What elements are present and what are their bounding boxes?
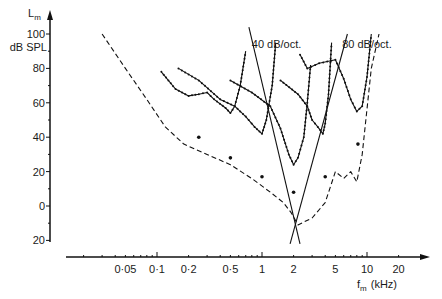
data-point-marker [356,142,360,146]
curve-sample-dot [363,97,365,99]
curve-sample-dot [257,96,259,98]
curve-sample-dot [242,113,244,115]
tuning-curve-chart: 40 dB/oct.80 dB/oct. Lm dB SPL fm(kHz) 1… [0,0,442,299]
curve-sample-dot [160,71,162,73]
curve-sample-dot [172,85,174,87]
curve-sample-dot [329,65,331,67]
curve-sample-dot [350,98,352,100]
curve-sample-dot [307,89,309,91]
curve-sample-dot [266,115,268,117]
data-point-marker [260,175,264,179]
curve-sample-dot [352,102,354,104]
curve-sample-dot [279,79,281,81]
curve-sample-dot [204,85,206,87]
curve-sample-dot [300,144,302,146]
y-tick-label: 20 [33,166,45,178]
curve-sample-dot [272,77,274,79]
curve-sample-dot [311,119,313,121]
x-axis-title: fm(kHz) [357,278,397,293]
curve-sample-dot [213,98,215,100]
curve-sample-dot [304,125,306,127]
curve-sample-dot [188,73,190,75]
y-tick-label: 80 [33,62,45,74]
curve-sample-dot [273,57,275,59]
curve-sample-dot [329,69,331,71]
curve-sample-dot [365,80,367,82]
y-axis-title: Lm [28,7,41,22]
curve-sample-dot [269,105,271,107]
curve-sample-dot [308,85,310,87]
curve-sample-dot [365,84,367,86]
x-tick-label: 20 [392,263,404,275]
curve-sample-dot [242,65,244,67]
x-tick-label: 0·1 [149,263,165,275]
curve-sample-dot [265,119,267,121]
curve-sample-dot [251,91,253,93]
curve-sample-dot [225,107,227,109]
curve-sample-dot [329,61,331,63]
curve-sample-dot [309,112,311,114]
data-point-marker [197,135,201,139]
curve-sample-dot [304,64,306,66]
y-tick-label: 60 [33,97,45,109]
curve-sample-dot [278,124,280,126]
curve-sample-dot [251,122,253,124]
curve-sample-dot [219,103,221,105]
data-point-marker [292,190,296,194]
tuning-curve [178,43,275,134]
curve-sample-dot [194,77,196,79]
curve-sample-dot [309,68,311,70]
curve-sample-dot [229,79,231,81]
curve-sample-dot [303,132,305,134]
x-tick-label: 1 [259,263,265,275]
curve-sample-dot [297,157,299,159]
curve-sample-dot [298,153,300,155]
curve-sample-dot [306,102,308,104]
curve-sample-dot [318,62,320,64]
curve-sample-dot [359,108,361,110]
curve-sample-dot [198,79,200,81]
curve-sample-dot [174,88,176,90]
curve-sample-dot [254,126,256,128]
curve-sample-dot [202,92,204,94]
curve-sample-dot [273,61,275,63]
tuning-curve [230,65,310,165]
curve-sample-dot [222,105,224,107]
curve-sample-dot [341,74,343,76]
curve-sample-dot [305,113,307,115]
curve-sample-dot [293,164,295,166]
curve-sample-dot [234,105,236,107]
curve-sample-dot [310,116,312,118]
curve-sample-dot [324,122,326,124]
curve-sample-dot [256,128,258,130]
curve-sample-dot [260,98,262,100]
curve-sample-dot [302,140,304,142]
curve-sample-dot [184,71,186,73]
curve-sample-dot [348,94,350,96]
curve-sample-dot [269,100,271,102]
curve-sample-dot [314,64,316,66]
curve-sample-dot [243,62,245,64]
curve-sample-dot [334,59,336,61]
curve-sample-dot [237,93,239,95]
curve-sample-dot [303,136,305,138]
curve-sample-dot [216,101,218,103]
threshold-curve [102,34,379,225]
curve-sample-dot [272,73,274,75]
curve-sample-dot [201,82,203,84]
curve-sample-dot [307,98,309,100]
curve-sample-dot [236,108,238,110]
curve-sample-dot [347,90,349,92]
curve-sample-dot [329,73,331,75]
curve-sample-dot [244,54,246,56]
y-axis-arrow-icon [47,10,53,20]
curve-sample-dot [310,66,312,68]
curve-sample-dot [291,160,293,162]
curve-sample-dot [165,77,167,79]
slope-annotation: 40 dB/oct. [252,38,302,50]
y-tick-label: 20 [33,234,45,246]
axes: Lm dB SPL fm(kHz) 100806040200200·050·10… [10,7,430,293]
curve-sample-dot [240,81,242,83]
curve-sample-dot [314,122,316,124]
curve-sample-dot [261,133,263,135]
